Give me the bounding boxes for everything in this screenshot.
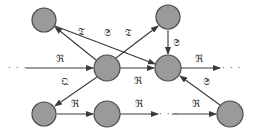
node-top-right bbox=[156, 5, 180, 29]
graph-diagram: · · · · · · · · · ℜ 𝔗 𝔖 𝔗 𝔖 ℜ ℜ 𝔔 ℜ ℜ ℜ … bbox=[0, 0, 258, 135]
label-bottommid-dots: ℜ bbox=[135, 98, 144, 109]
label-bottomright-midright: 𝔖 bbox=[203, 76, 210, 87]
label-bottomleft-bottommid: ℜ bbox=[71, 98, 80, 109]
node-bottom-left bbox=[32, 102, 56, 126]
ellipsis-left: · · · bbox=[8, 63, 27, 73]
label-topright-midright: 𝔖 bbox=[173, 37, 180, 48]
label-center-bottomleft: 𝔔 bbox=[61, 76, 69, 87]
edge-center-to-topright bbox=[116, 26, 158, 58]
label-center-midright: ℜ bbox=[134, 75, 143, 86]
node-top-left bbox=[32, 8, 56, 32]
node-bottom-mid bbox=[94, 101, 120, 127]
label-center-topright: 𝔗 bbox=[125, 27, 132, 38]
label-topleft-midright: 𝔖 bbox=[104, 27, 111, 38]
ellipsis-bottom: · · · bbox=[159, 109, 178, 119]
edge-bottomright-to-midright bbox=[180, 76, 220, 105]
label-midright-dots: ℜ bbox=[195, 53, 204, 64]
ellipsis-right: · · · bbox=[222, 63, 241, 73]
label-dots-bottomright: ℜ bbox=[192, 98, 201, 109]
node-bottom-right bbox=[217, 101, 243, 127]
node-center bbox=[94, 55, 120, 81]
label-center-topleft: 𝔗 bbox=[78, 26, 85, 37]
label-dots-center: ℜ bbox=[56, 53, 65, 64]
node-mid-right bbox=[155, 55, 181, 81]
